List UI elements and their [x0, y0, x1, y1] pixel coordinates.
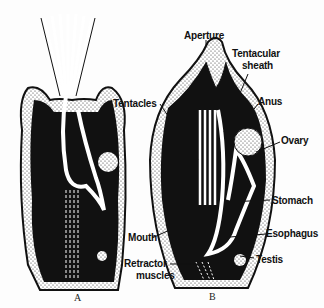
label-retractor-line2: muscles	[136, 270, 175, 281]
bryozoan-zooid-diagram: Aperture Tentacular sheath Anus Tentacle…	[0, 0, 324, 308]
label-tentacular-sheath-line1: Tentacular	[232, 48, 280, 59]
label-stomach: Stomach	[272, 195, 313, 206]
panel-b-zooid	[150, 38, 275, 288]
label-testis: Testis	[256, 254, 283, 265]
label-ovary: Ovary	[281, 135, 308, 146]
label-esophagus: Esophagus	[266, 228, 318, 239]
caption-panel-a: A	[74, 292, 81, 303]
label-tentacular-sheath-line2: sheath	[242, 60, 273, 71]
label-aperture: Aperture	[184, 30, 224, 41]
label-mouth: Mouth	[128, 232, 157, 243]
panel-a-zooid	[21, 14, 126, 290]
caption-panel-b: B	[209, 291, 216, 302]
label-retractor-line1: Retractor	[124, 258, 167, 269]
label-anus: Anus	[258, 96, 282, 107]
label-tentacles: Tentacles	[113, 98, 157, 109]
